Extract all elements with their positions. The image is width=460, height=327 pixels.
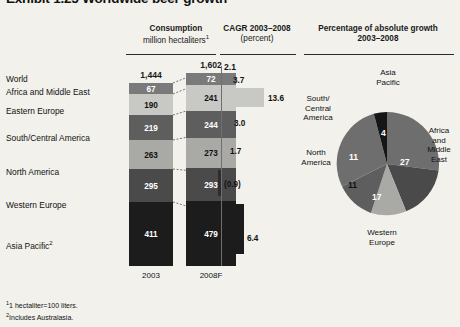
segment-2008-north-america-value: 273 [186, 149, 236, 158]
axis-label-2008: 2008F [186, 271, 236, 280]
cagr-header: CAGR 2003–2008 (percent) [214, 24, 300, 43]
header-rule-pie [304, 54, 454, 55]
pie-label-we-line2: Europe [350, 238, 414, 248]
exhibit-root: Exhibit 1.25 Worldwide beer growth Consu… [0, 0, 460, 327]
consumption-header: Consumption million hectaliters1 [126, 24, 226, 45]
pie-label-na-line1: North [293, 148, 339, 158]
consumption-header-line1: Consumption [126, 24, 226, 34]
pie-label-ame-line4: East [418, 155, 460, 165]
segment-2003-asia-pacific: 411 [129, 202, 173, 266]
pie-label-asia-pacific: Asia Pacific [360, 68, 416, 87]
consumption-header-line2: million hectaliters1 [126, 34, 226, 45]
pie-value-north-america: 11 [348, 180, 357, 190]
pie-value-western-europe: 17 [372, 192, 382, 202]
segment-2003-south-central-america-value: 219 [129, 123, 173, 132]
cagr-bar-north-america [222, 140, 226, 160]
rowlabel-world: World [6, 74, 28, 84]
footnote-2: 2Includes Australasia. [6, 312, 78, 323]
pie-label-western-europe: Western Europe [350, 228, 414, 247]
pie-label-we-line1: Western [350, 228, 414, 238]
pie-value-south-central-america: 11 [349, 152, 358, 162]
footnotes: 11 hectaliter=100 liters. 2Includes Aust… [6, 300, 78, 323]
pie-header: Percentage of absolute growth 2003–2008 [300, 24, 456, 43]
cagr-header-line1: CAGR 2003–2008 [214, 24, 300, 34]
rowlabel-western-europe: Western Europe [6, 200, 66, 210]
pie-label-south-central-america: South/ Central America [295, 94, 341, 123]
axis-label-2003: 2003 [129, 271, 173, 280]
cagr-value-asia-pacific: 6.4 [247, 234, 258, 243]
segment-2003-north-america: 263 [129, 140, 173, 169]
asia-pacific-footnote-marker: 2 [49, 240, 52, 246]
cagr-value-africa: 3.7 [233, 76, 244, 85]
pie-label-asia-pacific-line1: Asia [360, 68, 416, 78]
rowlabel-north-america: North America [6, 167, 59, 177]
segment-2003-africa-value: 67 [129, 84, 173, 93]
pie-header-line1: Percentage of absolute growth [300, 24, 456, 34]
pie-label-na-line2: America [293, 158, 339, 168]
cagr-value-western-europe: (0.9) [224, 180, 241, 189]
segment-2008-north-america: 273 [186, 138, 236, 168]
pie-label-ame-line1: Africa [418, 126, 460, 136]
segment-2003-eastern-europe: 190 [129, 94, 173, 115]
segment-2003-africa: 67 [129, 83, 173, 94]
rowlabel-eastern-europe: Eastern Europe [6, 106, 64, 116]
segment-2003-south-central-america: 219 [129, 115, 173, 140]
pie-label-ame-line3: Middle [418, 145, 460, 155]
pie-label-africa-middle-east: Africa and Middle East [418, 126, 460, 164]
cagr-bar-western-europe [218, 170, 221, 196]
cagr-bar-south-central-america [222, 114, 232, 132]
cagr-header-line2: (percent) [214, 34, 300, 44]
cagr-bar-asia-pacific [222, 204, 244, 254]
segment-2003-north-america-value: 263 [129, 150, 173, 159]
consumption-footnote-marker: 1 [206, 34, 209, 40]
pie-value-asia-pacific: 4 [381, 128, 386, 138]
cagr-bar-africa [222, 77, 231, 85]
pie-label-sca-line2: Central [295, 104, 341, 114]
pie-label-sca-line3: America [295, 113, 341, 123]
pie-label-north-america: North America [293, 148, 339, 167]
rowlabel-africa: Africa and Middle East [6, 87, 90, 97]
cagr-bar-eastern-europe [222, 88, 264, 107]
segment-2003-western-europe: 295 [129, 169, 173, 202]
pie-header-line2: 2003–2008 [300, 34, 456, 44]
exhibit-title: Exhibit 1.25 Worldwide beer growth [6, 0, 227, 6]
cagr-total-value: 2.1 [224, 62, 236, 72]
footnote-1: 11 hectaliter=100 liters. [6, 300, 78, 311]
header-rule-cagr [220, 54, 296, 55]
cagr-value-eastern-europe: 13.6 [268, 94, 284, 103]
cagr-value-south-central-america: 3.0 [234, 119, 245, 128]
cagr-value-north-america: 1.7 [230, 147, 241, 156]
segment-2003-western-europe-value: 295 [129, 181, 173, 190]
rowlabel-south-central-america: South/Central America [6, 133, 90, 143]
total-2003: 1,444 [129, 70, 173, 80]
segment-2003-eastern-europe-value: 190 [129, 100, 173, 109]
pie-value-africa: 27 [400, 157, 410, 167]
rowlabel-asia-pacific: Asia Pacific2 [6, 240, 53, 251]
pie-label-ame-line2: and [418, 136, 460, 146]
pie-label-sca-line1: South/ [295, 94, 341, 104]
segment-2003-asia-pacific-value: 411 [129, 230, 173, 239]
header-rule-consumption [126, 54, 216, 55]
pie-label-asia-pacific-line2: Pacific [360, 78, 416, 88]
